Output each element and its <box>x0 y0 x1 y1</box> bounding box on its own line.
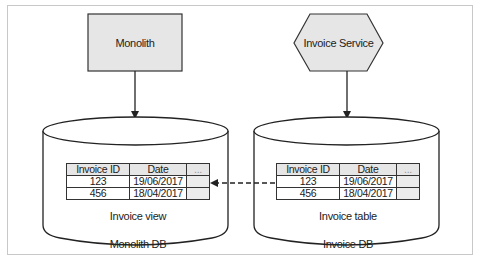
invoice-db-label: Invoice DB <box>276 238 420 250</box>
monolith-label: Monolith <box>88 14 182 71</box>
table-cell <box>187 188 210 200</box>
invoice-view-caption: Invoice view <box>66 210 210 222</box>
monolith-db-label: Monolith DB <box>66 238 210 250</box>
column-header: Invoice ID <box>277 164 340 176</box>
table-cell: 19/06/2017 <box>130 176 187 188</box>
table-cell: 456 <box>277 188 340 200</box>
invoice-table: Invoice ID Date ... 123 19/06/2017 456 1… <box>276 163 420 200</box>
table-header-row: Invoice ID Date ... <box>277 164 420 176</box>
column-header: Date <box>130 164 187 176</box>
table-cell: 19/06/2017 <box>340 176 397 188</box>
column-header: Date <box>340 164 397 176</box>
table-row: 456 18/04/2017 <box>67 188 210 200</box>
table-cell: 123 <box>67 176 130 188</box>
column-header: Invoice ID <box>67 164 130 176</box>
invoice-service-label: Invoice Service <box>294 14 383 71</box>
diagram-canvas <box>0 0 480 262</box>
table-header-row: Invoice ID Date ... <box>67 164 210 176</box>
table-cell <box>187 176 210 188</box>
table-cell <box>397 188 420 200</box>
invoice-table-caption: Invoice table <box>276 210 420 222</box>
table-row: 456 18/04/2017 <box>277 188 420 200</box>
invoice-view-table: Invoice ID Date ... 123 19/06/2017 456 1… <box>66 163 210 200</box>
table-cell <box>397 176 420 188</box>
column-header: ... <box>187 164 210 176</box>
column-header: ... <box>397 164 420 176</box>
table-row: 123 19/06/2017 <box>277 176 420 188</box>
table-cell: 123 <box>277 176 340 188</box>
table-row: 123 19/06/2017 <box>67 176 210 188</box>
table-cell: 18/04/2017 <box>340 188 397 200</box>
table-cell: 18/04/2017 <box>130 188 187 200</box>
table-cell: 456 <box>67 188 130 200</box>
